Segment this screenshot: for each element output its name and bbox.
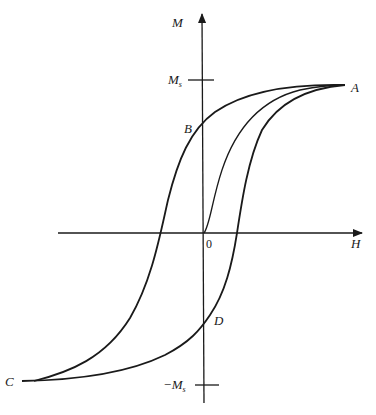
point-a-label: A: [350, 80, 359, 95]
ms-label: Ms: [167, 72, 182, 89]
m-axis: [202, 14, 204, 403]
point-c-label: C: [5, 374, 14, 389]
initial-magnetization-curve: [204, 85, 345, 233]
point-d-label: D: [213, 313, 224, 328]
origin-label: 0: [206, 237, 212, 251]
point-b-label: B: [184, 121, 192, 136]
m-axis-label: M: [171, 15, 184, 30]
h-axis-label: H: [350, 236, 361, 251]
hysteresis-diagram: M H 0 Ms −Ms A B C D: [0, 0, 376, 415]
neg-ms-label: −Ms: [163, 377, 186, 394]
